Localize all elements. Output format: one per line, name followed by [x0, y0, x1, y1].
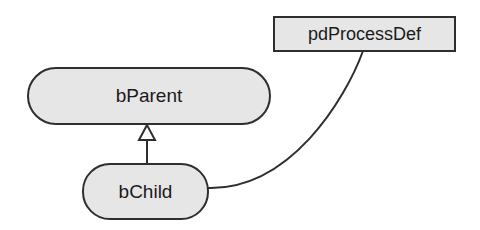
hollow-triangle-arrow-icon	[139, 125, 155, 140]
node-pdprocessdef[interactable]: pdProcessDef	[273, 16, 456, 52]
diagram-canvas: bParent bChild pdProcessDef	[0, 0, 480, 230]
node-bchild[interactable]: bChild	[82, 163, 209, 220]
node-bparent[interactable]: bParent	[27, 67, 271, 125]
node-label: bParent	[116, 85, 183, 107]
node-label: bChild	[119, 181, 173, 203]
node-label: pdProcessDef	[308, 24, 421, 45]
